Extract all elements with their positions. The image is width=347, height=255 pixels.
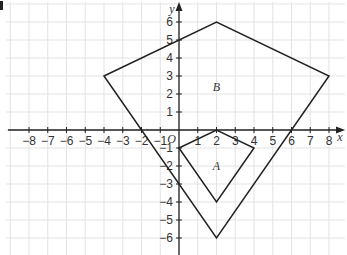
origin-label: O <box>167 132 176 146</box>
x-axis-label: x <box>336 130 343 144</box>
x-tick-label: 1 <box>194 134 201 148</box>
y-axis-arrow-icon <box>176 2 183 11</box>
y-tick-label: 2 <box>166 87 173 101</box>
y-tick-label: −6 <box>159 231 173 245</box>
x-tick-label: −3 <box>116 134 130 148</box>
shape-label-a: A <box>212 159 221 173</box>
x-tick-label: 2 <box>213 134 220 148</box>
corner-marker <box>0 1 3 10</box>
y-tick-label: 1 <box>166 105 173 119</box>
y-tick-label: 3 <box>166 69 173 83</box>
shape-label-b: B <box>213 80 221 94</box>
y-tick-label: 6 <box>166 15 173 29</box>
y-tick-label: −3 <box>159 177 173 191</box>
x-tick-label: 4 <box>251 134 258 148</box>
x-tick-label: −5 <box>78 134 92 148</box>
x-tick-label: 8 <box>326 134 333 148</box>
x-tick-label: −4 <box>97 134 111 148</box>
x-tick-label: −8 <box>22 134 36 148</box>
coordinate-diagram: −8−7−6−5−4−3−2−112345678−6−5−4−3−2−11234… <box>0 0 347 255</box>
y-axis-label: y <box>168 2 175 16</box>
x-tick-label: −7 <box>41 134 55 148</box>
x-tick-label: 6 <box>288 134 295 148</box>
y-tick-label: −5 <box>159 213 173 227</box>
x-tick-label: 7 <box>307 134 314 148</box>
x-tick-label: 5 <box>269 134 276 148</box>
x-tick-label: −6 <box>60 134 74 148</box>
y-tick-label: −4 <box>159 195 173 209</box>
grid-lines <box>6 2 345 255</box>
coordinate-plane: −8−7−6−5−4−3−2−112345678−6−5−4−3−2−11234… <box>0 0 347 255</box>
y-tick-label: 4 <box>166 51 173 65</box>
